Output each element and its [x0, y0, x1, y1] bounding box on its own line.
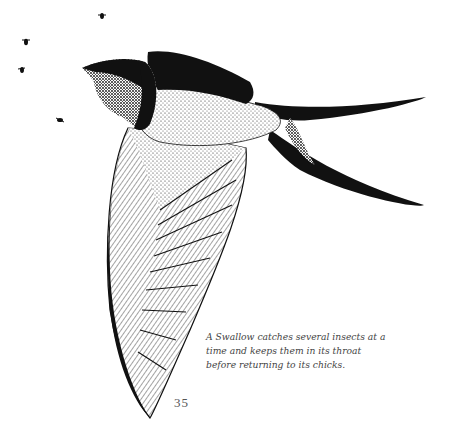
body: [82, 51, 280, 145]
figure-caption: A Swallow catches several insects at a t…: [206, 330, 386, 372]
page-number: 35: [0, 395, 363, 411]
wing: [107, 128, 246, 418]
book-page: A Swallow catches several insects at a t…: [0, 0, 451, 441]
tail: [255, 97, 426, 206]
swallow-illustration: [0, 0, 451, 441]
